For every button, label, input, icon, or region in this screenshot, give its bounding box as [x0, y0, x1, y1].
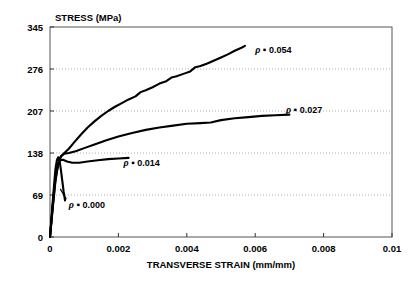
y-tick-label: 207	[27, 106, 43, 117]
y-tick-label: 69	[32, 190, 43, 201]
svg-text:ρ ▪ 0.000: ρ ▪ 0.000	[68, 199, 105, 210]
series-label-rho-0-027: ρ ▪ 0.027	[285, 104, 322, 115]
y-tick-label: 276	[27, 64, 43, 75]
x-axis-tick-labels: 00.0020.0040.0060.0080.01	[47, 243, 402, 254]
series-label-rho-0-054: ρ ▪ 0.054	[254, 44, 291, 55]
x-tick-label: 0.01	[383, 243, 402, 254]
x-tick-label: 0.006	[243, 243, 267, 254]
y-axis-title: STRESS (MPa)	[55, 12, 122, 23]
x-axis-title: TRANSVERSE STRAIN (mm/mm)	[147, 259, 295, 270]
y-tick-label: 0	[38, 232, 43, 243]
stress-strain-chart: 00.0020.0040.0060.0080.01 06913820727634…	[0, 0, 420, 284]
x-tick-label: 0.008	[312, 243, 336, 254]
y-tick-label: 345	[27, 22, 44, 33]
svg-text:ρ ▪ 0.054: ρ ▪ 0.054	[254, 44, 291, 55]
x-tick-label: 0	[47, 243, 52, 254]
svg-text:ρ ▪ 0.014: ρ ▪ 0.014	[123, 157, 160, 168]
x-tick-label: 0.004	[175, 243, 199, 254]
x-tick-label: 0.002	[107, 243, 131, 254]
series-label-rho-0-000: ρ ▪ 0.000	[68, 199, 105, 210]
y-tick-label: 138	[27, 148, 43, 159]
svg-text:ρ ▪ 0.027: ρ ▪ 0.027	[285, 104, 322, 115]
y-axis-tick-labels: 069138207276345	[27, 22, 44, 243]
series-label-rho-0-014: ρ ▪ 0.014	[123, 157, 160, 168]
